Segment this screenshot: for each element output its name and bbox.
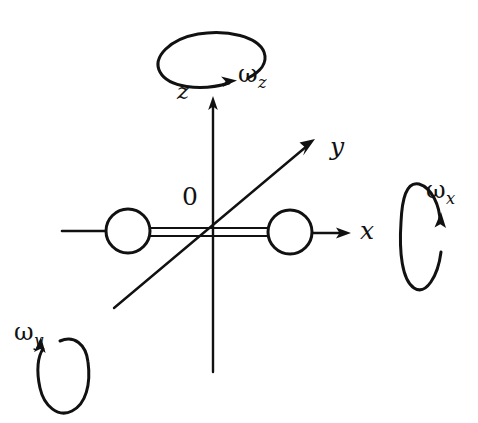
- left-ball: [106, 209, 150, 253]
- omega-y-symbol: ω: [14, 318, 34, 346]
- omega-z-label: ωz: [238, 62, 267, 91]
- omega-z-arrowhead: [221, 77, 237, 88]
- z-axis: [208, 96, 218, 372]
- origin-label: 0: [182, 184, 198, 209]
- omega-y-loop-arc: [38, 339, 89, 413]
- omega-y-subscript: y: [34, 331, 43, 350]
- right-ball: [268, 210, 312, 254]
- omega-x-arrowhead: [435, 212, 447, 228]
- axis-label-x: x: [360, 218, 374, 243]
- omega-z-subscript: z: [258, 73, 267, 92]
- omega-y-label: ωy: [14, 320, 43, 349]
- axis-label-z: z: [177, 80, 189, 103]
- omega-x-subscript: x: [446, 189, 455, 208]
- omega-z-symbol: ω: [238, 60, 258, 88]
- omega-x-label: ωx: [426, 178, 455, 207]
- axis-label-y: y: [330, 134, 344, 159]
- y-axis-arrowhead: [300, 139, 316, 155]
- omega-x-symbol: ω: [426, 176, 446, 204]
- physics-diagram-canvas: x y z 0 ωx ωy ωz: [0, 0, 478, 423]
